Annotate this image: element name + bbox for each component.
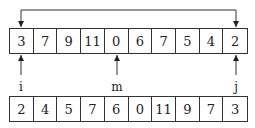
array-cell: 6 xyxy=(105,97,129,121)
array-cell: 7 xyxy=(200,97,224,121)
array-cell: 5 xyxy=(176,29,200,53)
pointer-arrows xyxy=(18,55,239,75)
array-cell: 7 xyxy=(34,29,58,53)
array-cell: 7 xyxy=(152,29,176,53)
pointer-label-m: m xyxy=(111,80,122,94)
pointer-label-i: i xyxy=(19,80,23,94)
array-cell: 3 xyxy=(10,29,34,53)
pointer-label-j: j xyxy=(234,80,238,94)
array-cell: 11 xyxy=(81,29,105,53)
array-cell: 9 xyxy=(57,29,81,53)
bottom-array: 2 4 5 7 6 0 11 9 7 3 xyxy=(9,96,248,122)
array-cell: 4 xyxy=(34,97,58,121)
array-cell: 2 xyxy=(10,97,34,121)
array-cell: 3 xyxy=(223,97,247,121)
array-cell: 11 xyxy=(152,97,176,121)
top-array: 3 7 9 11 0 6 7 5 4 2 xyxy=(9,28,248,54)
array-cell: 6 xyxy=(129,29,153,53)
array-cell: 4 xyxy=(200,29,224,53)
swap-arrow xyxy=(18,10,239,27)
array-cell: 0 xyxy=(129,97,153,121)
array-cell: 2 xyxy=(223,29,247,53)
array-cell: 5 xyxy=(57,97,81,121)
array-cell: 7 xyxy=(81,97,105,121)
array-cell: 0 xyxy=(105,29,129,53)
array-cell: 9 xyxy=(176,97,200,121)
